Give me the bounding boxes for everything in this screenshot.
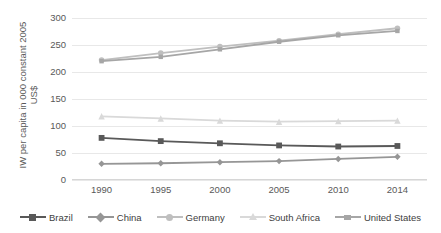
data-point-marker [276, 158, 282, 164]
legend-swatch-icon [240, 212, 266, 222]
data-point-marker [217, 140, 223, 146]
legend-label: China [117, 212, 142, 223]
data-point-marker [98, 161, 104, 167]
legend-item-china[interactable]: China [88, 212, 142, 223]
legend-label: Brazil [49, 212, 73, 223]
series-line [102, 31, 398, 61]
data-point-marker [158, 160, 164, 166]
series-brazil [99, 135, 401, 149]
series-line [102, 138, 398, 147]
legend-item-united-states[interactable]: United States [335, 212, 421, 223]
data-point-marker [158, 138, 164, 144]
x-axis-tick-label: 2005 [255, 184, 303, 195]
data-point-marker [217, 159, 223, 165]
data-point-marker [394, 154, 400, 160]
data-point-marker [276, 143, 282, 149]
legend-item-brazil[interactable]: Brazil [20, 212, 73, 223]
series-united-states [99, 29, 399, 64]
series-south-africa [98, 113, 400, 125]
gridline [72, 180, 427, 181]
y-axis-tick-label: 0 [36, 174, 66, 185]
data-point-marker [159, 55, 163, 59]
legend-swatch-icon [88, 212, 114, 222]
legend-item-germany[interactable]: Germany [157, 212, 225, 223]
series-line [102, 157, 398, 164]
series-china [98, 154, 400, 167]
plot-area [72, 18, 427, 180]
data-point-marker [99, 59, 103, 63]
x-axis-tick-label: 1995 [137, 184, 185, 195]
legend-label: South Africa [269, 212, 320, 223]
y-axis-tick-label: 300 [36, 12, 66, 23]
data-point-marker [99, 135, 105, 141]
y-axis-tick-label: 50 [36, 147, 66, 158]
x-axis-tick-label: 2014 [373, 184, 421, 195]
data-point-marker [335, 156, 341, 162]
data-point-marker [336, 33, 340, 37]
series-line [102, 28, 398, 60]
y-axis-title-line-1: IW per capita in 000 constant 2005 [17, 5, 28, 185]
data-point-marker [218, 47, 222, 51]
data-point-marker [335, 144, 341, 150]
legend-swatch-icon [335, 212, 361, 222]
x-axis-tick-label: 2000 [196, 184, 244, 195]
x-axis-tick-label: 1990 [78, 184, 126, 195]
legend-swatch-icon [20, 212, 46, 222]
legend-label: Germany [186, 212, 225, 223]
y-axis-tick-label: 250 [36, 39, 66, 50]
series-layer [72, 18, 427, 180]
x-axis-tick-label: 2010 [314, 184, 362, 195]
y-axis-tick-label: 200 [36, 66, 66, 77]
data-point-marker [395, 143, 401, 149]
legend-item-south-africa[interactable]: South Africa [240, 212, 320, 223]
legend-label: United States [364, 212, 421, 223]
legend-swatch-icon [157, 212, 183, 222]
data-point-marker [395, 29, 399, 33]
series-line [102, 116, 398, 121]
y-axis-tick-label: 150 [36, 93, 66, 104]
chart-legend: BrazilChinaGermanySouth AfricaUnited Sta… [0, 207, 441, 227]
data-point-marker [277, 40, 281, 44]
inclusive-wealth-line-chart: IW per capita in 000 constant 2005 US$ 0… [0, 0, 441, 233]
y-axis-tick-label: 100 [36, 120, 66, 131]
